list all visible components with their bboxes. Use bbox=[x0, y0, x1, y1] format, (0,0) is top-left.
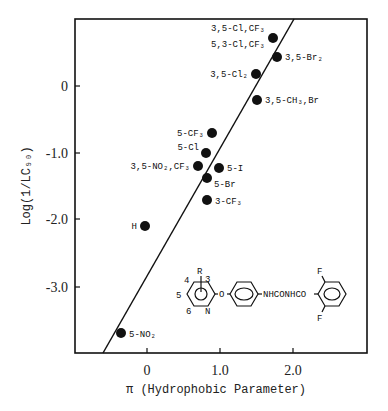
point-3-5-br2 bbox=[272, 52, 282, 62]
label-5-3-cl-cf3: 5,3-Cl,CF₃ bbox=[211, 40, 265, 50]
point-h bbox=[140, 221, 150, 231]
x-axis: 0 1.0 2.0 π (Hydrophobic Parameter) bbox=[126, 348, 306, 397]
y-tick-minus3: -3.0 bbox=[46, 280, 68, 295]
point-3-cf3 bbox=[202, 195, 212, 205]
point-5-no2 bbox=[116, 328, 126, 338]
label-5-cf3: 5-CF₃ bbox=[177, 129, 204, 139]
label-3-5-cl2: 3,5-Cl₂ bbox=[210, 70, 248, 80]
label-5-cl: 5-Cl bbox=[177, 143, 199, 153]
regression-line bbox=[103, 19, 294, 353]
y-tick-minus2: -2.0 bbox=[46, 212, 68, 227]
struct-pos4: 4 bbox=[184, 276, 189, 286]
structure-labels: R 3 4 5 6 N O NHCONHCO F F bbox=[176, 267, 322, 324]
point-5-cl bbox=[201, 148, 211, 158]
point-5-br bbox=[202, 173, 212, 183]
label-h: H bbox=[132, 222, 137, 232]
x-tick-0: 0 bbox=[144, 363, 151, 378]
label-5-br: 5-Br bbox=[214, 180, 236, 190]
point-3-5-no2-cf3 bbox=[193, 161, 203, 171]
y-tick-0: 0 bbox=[61, 79, 68, 94]
label-3-cf3: 3-CF₃ bbox=[215, 197, 242, 207]
struct-urea: NHCONHCO bbox=[263, 290, 306, 300]
struct-pos5: 5 bbox=[176, 291, 181, 301]
point-3-5-ch3-br bbox=[252, 95, 262, 105]
phenyl-ring bbox=[230, 282, 258, 306]
struct-pos6: 6 bbox=[186, 307, 191, 317]
struct-f2: F bbox=[317, 314, 322, 324]
point-3-5-cl2 bbox=[251, 69, 261, 79]
point-5-cf3 bbox=[207, 128, 217, 138]
label-3-5-cl-cf3: 3,5-Cl,CF₃ bbox=[211, 24, 265, 34]
label-5-no2: 5-NO₂ bbox=[129, 330, 156, 340]
label-3-5-ch3-br: 3,5-CH₃,Br bbox=[265, 96, 319, 106]
struct-pos3: 3 bbox=[205, 275, 210, 285]
label-3-5-br2: 3,5-Br₂ bbox=[285, 53, 323, 63]
x-tick-2: 2.0 bbox=[284, 363, 302, 378]
point-3-5-cl-cf3 bbox=[268, 33, 278, 43]
difluorophenyl-ring bbox=[318, 282, 346, 306]
struct-f1: F bbox=[317, 267, 322, 277]
x-axis-title: π (Hydrophobic Parameter) bbox=[126, 383, 306, 397]
label-3-5-no2-cf3: 3,5-NO₂,CF₃ bbox=[131, 162, 190, 172]
struct-o: O bbox=[219, 290, 224, 300]
label-5-i: 5-I bbox=[227, 164, 243, 174]
y-tick-minus1: -1.0 bbox=[46, 146, 68, 161]
y-axis: 0 -1.0 -2.0 -3.0 Log(1/LC₉₀) bbox=[20, 79, 80, 295]
struct-r: R bbox=[197, 267, 203, 277]
scatter-chart: 0 -1.0 -2.0 -3.0 Log(1/LC₉₀) 0 1.0 2.0 π… bbox=[0, 0, 388, 411]
point-5-i bbox=[214, 163, 224, 173]
struct-n: N bbox=[205, 307, 210, 317]
x-tick-1: 1.0 bbox=[211, 363, 229, 378]
y-axis-title: Log(1/LC₉₀) bbox=[20, 146, 34, 225]
